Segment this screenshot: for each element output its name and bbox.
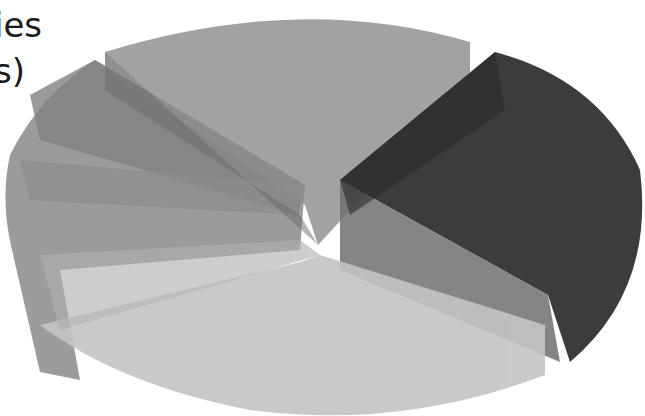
pie-chart <box>0 0 645 416</box>
